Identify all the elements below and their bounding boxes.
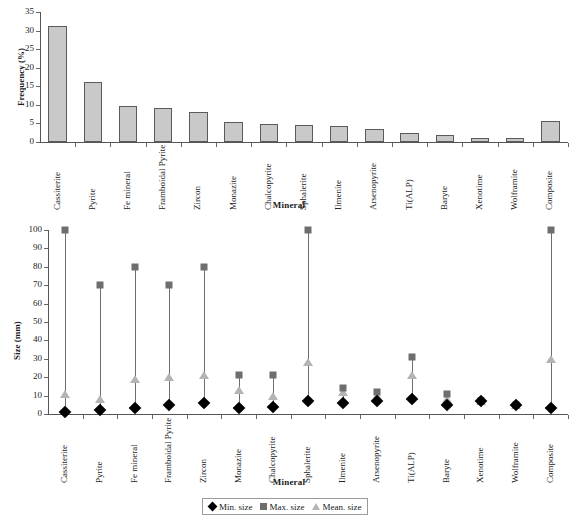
- max-size-marker: [339, 385, 346, 392]
- legend-item-min: Min. size: [209, 502, 253, 512]
- y-tick: [44, 248, 48, 249]
- frequency-bar: [541, 121, 559, 142]
- category-label: Xenotime: [476, 421, 485, 483]
- x-tick: [499, 415, 500, 419]
- x-tick: [110, 143, 111, 147]
- range-stem: [65, 230, 66, 412]
- legend-item-max: Max. size: [260, 502, 305, 512]
- frequency-bar: [84, 82, 102, 142]
- category-label: Zircon: [199, 421, 208, 483]
- frequency-plot-panel: 05101520253035CassiteritePyriteFe minera…: [40, 12, 568, 142]
- x-tick: [464, 415, 465, 419]
- x-tick: [75, 143, 76, 147]
- legend-label-min: Min. size: [219, 502, 253, 512]
- frequency-bar: [400, 133, 418, 142]
- max-size-marker: [166, 282, 173, 289]
- category-label: Baryte: [442, 421, 451, 483]
- y-tick-label: 80: [16, 261, 42, 271]
- y-tick: [44, 359, 48, 360]
- x-axis-line: [40, 142, 568, 143]
- min-size-marker: [267, 400, 280, 413]
- y-tick-label: 0: [16, 408, 42, 418]
- max-size-marker: [409, 353, 416, 360]
- y-tick-label: 35: [10, 6, 34, 16]
- frequency-plot-area: 05101520253035CassiteritePyriteFe minera…: [40, 12, 568, 142]
- category-label: Ti(ALP): [407, 421, 416, 483]
- min-size-marker: [198, 397, 211, 410]
- y-tick: [44, 285, 48, 286]
- range-stem: [551, 230, 552, 408]
- legend-item-mean: Mean. size: [312, 502, 362, 512]
- category-label: Chalcopyrite: [268, 421, 277, 483]
- y-tick: [44, 340, 48, 341]
- y-tick: [36, 123, 40, 124]
- mean-size-marker: [546, 355, 556, 363]
- category-label: Ilmenite: [338, 421, 347, 483]
- mean-size-marker: [95, 395, 105, 403]
- y-tick: [36, 86, 40, 87]
- max-size-marker: [131, 263, 138, 270]
- y-tick: [36, 49, 40, 50]
- min-size-marker: [544, 402, 557, 415]
- x-tick: [427, 143, 428, 147]
- frequency-bar: [154, 108, 172, 142]
- frequency-bar: [295, 125, 313, 142]
- range-stem: [204, 267, 205, 403]
- y-tick: [36, 12, 40, 13]
- y-axis-line: [40, 12, 41, 143]
- x-tick: [360, 415, 361, 419]
- y-tick-label: 15: [10, 80, 34, 90]
- y-axis-line: [48, 230, 49, 415]
- range-stem: [135, 267, 136, 409]
- frequency-bar: [330, 126, 348, 142]
- min-size-marker: [128, 402, 141, 415]
- x-tick: [146, 143, 147, 147]
- legend-label-mean: Mean. size: [323, 502, 362, 512]
- x-tick: [117, 415, 118, 419]
- x-tick: [83, 415, 84, 419]
- y-tick-label: 40: [16, 334, 42, 344]
- x-tick: [429, 415, 430, 419]
- y-tick-label: 10: [16, 390, 42, 400]
- x-tick: [498, 143, 499, 147]
- y-tick-label: 10: [10, 99, 34, 109]
- x-axis-line: [48, 414, 568, 415]
- x-tick: [251, 143, 252, 147]
- x-tick: [221, 415, 222, 419]
- category-label: Cassiterite: [60, 421, 69, 483]
- max-size-marker: [97, 282, 104, 289]
- y-tick: [44, 322, 48, 323]
- category-label: Monazite: [234, 421, 243, 483]
- max-size-marker: [62, 227, 69, 234]
- frequency-x-axis-title: Mineral: [0, 200, 578, 210]
- y-tick: [44, 396, 48, 397]
- mean-size-marker: [164, 373, 174, 381]
- max-size-marker: [305, 227, 312, 234]
- mean-size-marker: [130, 375, 140, 383]
- legend-label-max: Max. size: [270, 502, 305, 512]
- y-tick-label: 50: [16, 316, 42, 326]
- frequency-bar: [189, 112, 207, 142]
- x-tick: [291, 415, 292, 419]
- mean-size-marker: [268, 392, 278, 400]
- x-tick: [392, 143, 393, 147]
- x-tick: [395, 415, 396, 419]
- y-tick: [36, 68, 40, 69]
- y-tick: [44, 304, 48, 305]
- y-tick: [44, 230, 48, 231]
- frequency-bar: [48, 26, 66, 142]
- mean-size-marker: [60, 390, 70, 398]
- mean-size-marker: [234, 386, 244, 394]
- y-tick-label: 20: [10, 62, 34, 72]
- diamond-icon: [208, 502, 218, 512]
- x-tick: [286, 143, 287, 147]
- x-tick: [187, 415, 188, 419]
- size-plot-panel: 0102030405060708090100CassiteritePyriteF…: [48, 230, 568, 414]
- category-label: Pyrite: [95, 421, 104, 483]
- x-tick: [533, 415, 534, 419]
- legend: Min. size Max. size Mean. size: [202, 498, 368, 515]
- frequency-bar: [224, 122, 242, 142]
- frequency-bar: [365, 129, 383, 142]
- y-tick: [36, 142, 40, 143]
- y-tick-label: 100: [16, 224, 42, 234]
